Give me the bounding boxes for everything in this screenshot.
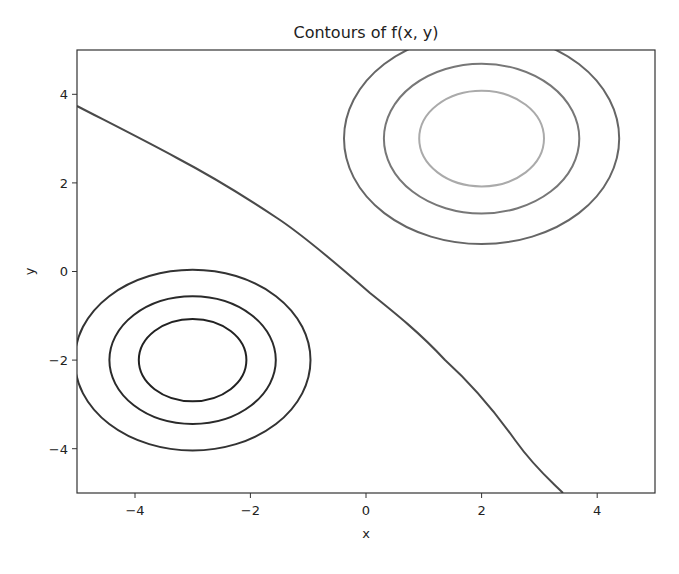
y-tick-label: 0 [60,264,68,279]
x-tick-label: 0 [362,503,370,518]
chart-title: Contours of f(x, y) [293,23,438,42]
plot-area [75,33,655,493]
y-tick-label: 4 [60,87,68,102]
y-tick-label: −2 [49,353,68,368]
x-tick-label: 2 [477,503,485,518]
x-axis: −4 −2 0 2 4 x [125,493,601,541]
y-axis: −4 −2 0 2 4 y [22,87,77,456]
y-tick-label: −4 [49,442,68,457]
contour-chart: Contours of f(x, y) −4 −2 0 2 4 x [0,0,679,574]
x-tick-label: −2 [241,503,260,518]
x-tick-label: −4 [125,503,144,518]
y-axis-label: y [22,267,37,275]
x-tick-label: 4 [593,503,601,518]
y-tick-label: 2 [60,176,68,191]
x-axis-label: x [362,526,370,541]
